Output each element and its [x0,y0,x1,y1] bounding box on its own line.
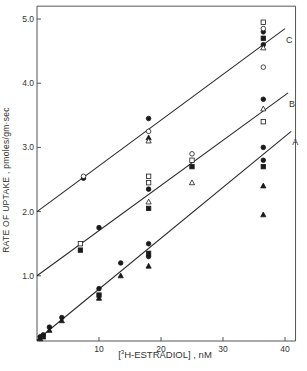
y-tick-label: 3.0 [22,142,34,152]
data-point-square [261,120,265,124]
y-tick-label: 2.0 [22,207,34,217]
data-point-circle [261,65,266,70]
data-point-circle [146,129,151,134]
data-point-circle [146,116,151,121]
data-point-circle [261,26,266,31]
data-point-circle [261,158,266,163]
regression-line-a [37,131,291,340]
data-point-triangle [261,212,266,217]
data-point-circle [81,174,86,179]
x-axis-label: [3H-ESTRADIOL] , nM [118,349,212,360]
data-point-square [146,174,150,178]
line-label-c: C [286,35,293,45]
line-label-a: A [292,137,298,147]
y-tick-label: 5.0 [22,14,34,24]
data-point-triangle [146,199,151,204]
data-point-square [190,158,194,162]
plot-frame [37,6,296,341]
data-point-square [78,242,82,246]
data-point-circle [190,152,195,157]
line-label-b: B [289,99,295,109]
x-tick-label: 30 [218,344,228,354]
x-tick-label: 40 [280,344,290,354]
y-tick-label: 1.0 [22,271,34,281]
y-axis-label: RATE OF UPTAKE , pmoles/gm·sec [1,107,11,253]
chart-figure: 1.02.03.04.05.010203040ABC RATE OF UPTAK… [0,0,307,371]
data-point-circle [97,286,102,291]
data-point-circle [261,145,266,150]
data-point-triangle [189,180,194,185]
data-point-triangle [146,263,151,268]
data-point-square [146,181,150,185]
data-point-triangle [261,183,266,188]
data-point-circle [118,261,123,266]
data-point-square [146,206,150,210]
data-point-circle [261,97,266,102]
x-label-main: H-ESTRADIOL [124,349,188,360]
data-point-triangle [261,106,266,111]
x-label-unit: ] , nM [188,349,212,360]
data-point-square [261,36,265,40]
data-point-square [146,251,150,255]
data-point-square [190,164,194,168]
data-point-square [261,164,265,168]
data-point-circle [146,187,151,192]
regression-line-c [37,29,285,212]
data-point-square [261,20,265,24]
plot-area: 1.02.03.04.05.010203040ABC [0,0,307,371]
data-point-circle [97,225,102,230]
y-tick-label: 4.0 [22,78,34,88]
data-point-square [78,248,82,252]
data-point-triangle [118,273,123,278]
data-point-circle [146,241,151,246]
x-tick-label: 10 [94,344,104,354]
